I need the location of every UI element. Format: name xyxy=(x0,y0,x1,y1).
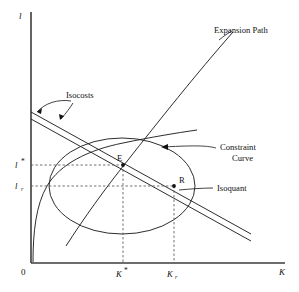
isocosts-arrowhead-right xyxy=(59,114,64,120)
economics-diagram: l K 0 l * l r K * K r xyxy=(0,0,299,292)
y-tick-l-star-base: l xyxy=(15,160,18,170)
axes-group xyxy=(31,12,285,263)
x-tick-k-star-sup: * xyxy=(124,266,128,275)
x-tick-k-r-sub: r xyxy=(175,274,178,280)
expansion-path-label: Expansion Path xyxy=(214,25,268,35)
isocosts-leader-left xyxy=(37,100,71,112)
expansion-path-shape xyxy=(66,32,233,246)
x-tick-k-r: K r xyxy=(166,269,178,280)
y-tick-l-r-base: l xyxy=(15,181,18,191)
labels-group: l K 0 l * l r K * K r xyxy=(15,11,286,280)
x-tick-k-star-base: K xyxy=(115,269,123,279)
isoquant-path xyxy=(33,130,197,262)
expansion-path-line xyxy=(66,32,233,246)
x-axis-label: K xyxy=(278,267,286,277)
point-E-dot xyxy=(121,163,125,167)
point-R-label: R xyxy=(179,175,185,185)
constraint-curve-arrowhead xyxy=(161,144,168,150)
x-tick-k-r-base: K xyxy=(166,269,174,279)
isocost-line-lower xyxy=(31,119,251,241)
isocost-lines-group xyxy=(31,112,251,241)
constraint-curve-label-line2: Curve xyxy=(232,153,253,163)
y-tick-l-r: l r xyxy=(15,181,24,192)
constraint-curve-label-line1: Constraint xyxy=(220,142,256,152)
x-tick-k-star: K * xyxy=(115,266,128,279)
constraint-curve-leader xyxy=(163,146,216,148)
y-tick-l-star: l * xyxy=(15,157,25,170)
origin-label: 0 xyxy=(21,267,26,277)
leader-lines-group xyxy=(37,31,232,190)
y-tick-l-r-sub: r xyxy=(21,186,24,192)
point-R-dot xyxy=(172,184,176,188)
y-axis-label: l xyxy=(19,11,22,21)
y-tick-l-star-sup: * xyxy=(21,157,25,166)
point-E-label: E xyxy=(117,153,122,163)
isoquant-leader xyxy=(179,188,213,190)
isocosts-label: Isocosts xyxy=(66,90,94,100)
diagram-canvas: l K 0 l * l r K * K r xyxy=(0,0,299,292)
isoquant-label: Isoquant xyxy=(217,183,247,193)
isoquant-curve-shape xyxy=(33,130,197,262)
